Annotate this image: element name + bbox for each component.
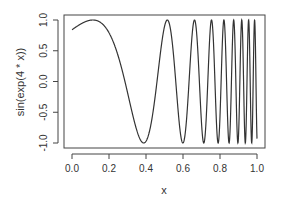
x-axis: 0.00.20.40.60.81.0 [65,154,264,174]
x-tick-label: 0.6 [176,163,190,174]
y-tick-label: 1.0 [38,13,49,27]
y-tick-label: -0.5 [38,103,49,121]
x-tick-label: 0.2 [102,163,116,174]
y-axis-label: sin(exp(4 * x)) [14,48,26,116]
x-tick-label: 0.8 [213,163,227,174]
y-tick-label: -1.0 [38,134,49,152]
y-axis: -1.0-0.50.00.51.0 [38,13,58,152]
y-tick-label: 0.5 [38,43,49,57]
x-tick-label: 0.0 [65,163,79,174]
x-tick-label: 0.4 [139,163,153,174]
line-chart: 0.00.20.40.60.81.0 -1.0-0.50.00.51.0 x s… [0,0,282,201]
x-tick-label: 1.0 [250,163,264,174]
y-tick-label: 0.0 [38,74,49,88]
data-line [72,20,257,143]
x-axis-label: x [161,184,167,196]
